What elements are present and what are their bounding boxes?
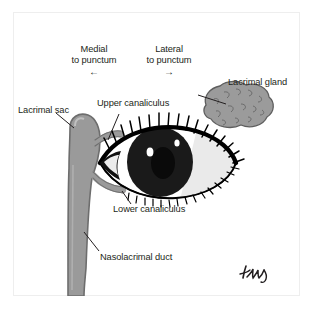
medial-line-2: to punctum: [60, 55, 128, 66]
corneal-highlight: [147, 147, 154, 156]
lateral-line-1: Lateral: [135, 44, 203, 55]
label-upper-canaliculus: Upper canaliculus: [97, 98, 169, 109]
medial-orientation-block: Medial to punctum ←: [60, 44, 128, 77]
lateral-line-2: to punctum: [135, 55, 203, 66]
artist-signature: [240, 266, 266, 282]
label-lacrimal-sac: Lacrimal sac: [18, 105, 69, 116]
label-lacrimal-gland: Lacrimal gland: [228, 77, 287, 88]
lateral-orientation-block: Lateral to punctum →: [135, 44, 203, 77]
figure-container: Medial to punctum ← Lateral to punctum →…: [0, 0, 314, 319]
label-lower-canaliculus: Lower canaliculus: [113, 204, 185, 215]
left-arrow-icon: ←: [60, 66, 128, 77]
leader-lower-canaliculus: [122, 191, 131, 204]
medial-line-1: Medial: [60, 44, 128, 55]
corneal-highlight-secondary: [174, 139, 179, 146]
lacrimal-gland-structure: [204, 81, 273, 127]
label-nasolacrimal-duct: Nasolacrimal duct: [100, 252, 172, 263]
right-arrow-icon: →: [135, 66, 203, 77]
pupil: [151, 147, 175, 179]
